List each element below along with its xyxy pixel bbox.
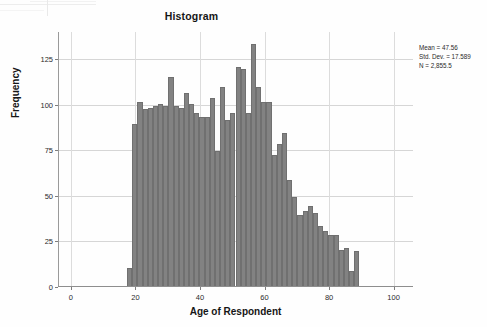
y-axis-label: Frequency (10, 67, 21, 118)
y-tick-mark (55, 287, 58, 288)
x-tick-label: 60 (260, 293, 268, 302)
histogram-bars (58, 32, 413, 287)
x-tick-mark (265, 287, 266, 290)
y-tick-label: 25 (45, 237, 53, 246)
x-tick-label: 40 (196, 293, 204, 302)
x-tick-mark (329, 287, 330, 290)
x-axis-label: Age of Respondent (58, 306, 413, 317)
stat-n: N = 2,855.5 (419, 62, 471, 71)
y-tick-label: 125 (40, 55, 53, 64)
stat-mean: Mean = 47.56 (419, 44, 471, 53)
x-tick-mark (394, 287, 395, 290)
x-tick-mark (135, 287, 136, 290)
scan-artifact-line (0, 4, 96, 5)
x-tick-mark (200, 287, 201, 290)
chart-title: Histogram (0, 10, 435, 22)
stat-std-dev: Std. Dev. = 17.589 (419, 53, 471, 62)
y-tick-label: 0 (49, 283, 53, 292)
y-axis-line (58, 32, 59, 287)
x-tick-label: 100 (387, 293, 400, 302)
y-tick-label: 100 (40, 100, 53, 109)
x-tick-mark (71, 287, 72, 290)
x-tick-label: 20 (131, 293, 139, 302)
plot-area: 0255075100125 020406080100 (58, 32, 413, 287)
x-axis-line (58, 286, 413, 287)
histogram-figure: Histogram 0255075100125 020406080100 Fre… (0, 0, 487, 327)
histogram-bar (354, 251, 359, 286)
x-tick-label: 0 (69, 293, 73, 302)
y-tick-label: 50 (45, 191, 53, 200)
scan-artifact-line (30, 1, 96, 2)
statistics-annotation: Mean = 47.56 Std. Dev. = 17.589 N = 2,85… (419, 44, 471, 71)
x-tick-label: 80 (325, 293, 333, 302)
y-tick-label: 75 (45, 146, 53, 155)
